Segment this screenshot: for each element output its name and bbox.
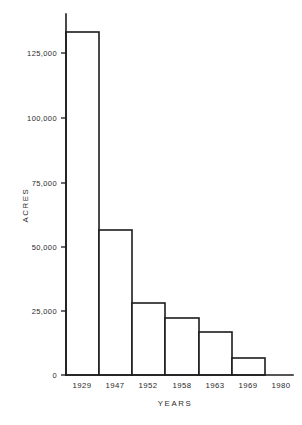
bar-chart-figure: 125,000 100,000 75,000 50,000 25,000 0 1… (0, 0, 302, 425)
y-tick-label-100000: 100,000 (27, 114, 57, 123)
x-tick-label-1947: 1947 (106, 381, 125, 390)
x-tick-label-1929: 1929 (73, 381, 92, 390)
chart-canvas: 125,000 100,000 75,000 50,000 25,000 0 1… (0, 0, 302, 425)
y-tick-label-125000: 125,000 (27, 49, 57, 58)
y-tick-label-50000: 50,000 (32, 243, 57, 252)
x-axis-title: YEARS (158, 399, 192, 408)
bar-1952 (132, 303, 165, 375)
bar-1969 (232, 358, 265, 375)
bars-group (66, 32, 265, 375)
x-tick-label-1969: 1969 (239, 381, 258, 390)
x-tick-label-1958: 1958 (173, 381, 192, 390)
bar-1947 (99, 230, 132, 375)
x-tick-label-1963: 1963 (206, 381, 225, 390)
y-tick-labels: 125,000 100,000 75,000 50,000 25,000 0 (27, 49, 57, 380)
y-tick-label-25000: 25,000 (32, 307, 57, 316)
y-axis-title: ACRES (21, 188, 30, 223)
x-tick-labels: 1929 1947 1952 1958 1963 1969 1980 (73, 381, 291, 390)
bar-1958 (165, 318, 199, 375)
y-tick-label-75000: 75,000 (32, 179, 57, 188)
x-tick-label-1952: 1952 (139, 381, 158, 390)
y-tick-label-0: 0 (52, 371, 57, 380)
bar-1929 (66, 32, 99, 375)
bar-1963 (199, 332, 232, 375)
x-tick-label-1980: 1980 (272, 381, 291, 390)
